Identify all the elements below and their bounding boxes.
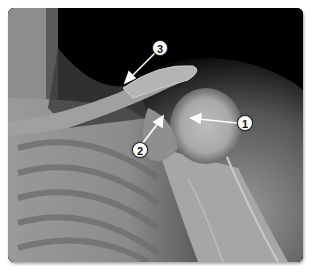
callout-label-3: 3	[152, 40, 168, 56]
xray-image-frame: 3 1 2	[8, 8, 303, 262]
callout-label-1: 1	[237, 115, 253, 131]
callout-label-2: 2	[132, 142, 148, 158]
